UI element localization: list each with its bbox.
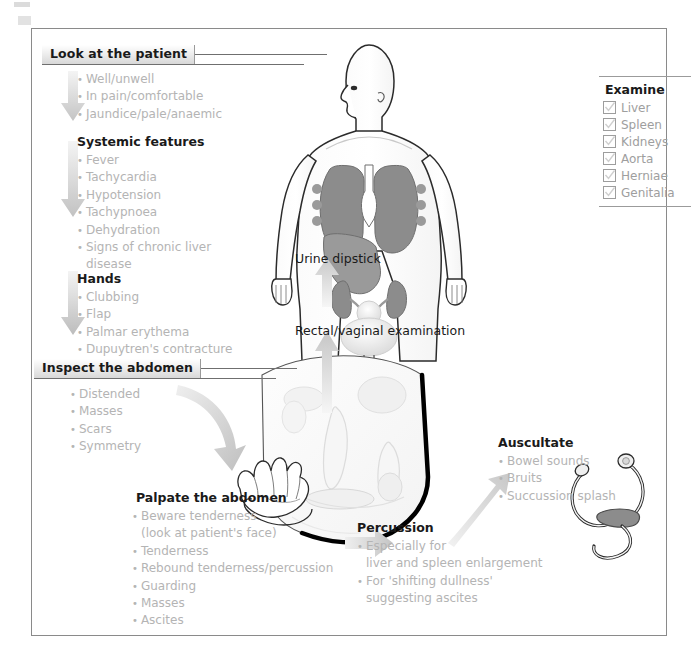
examine-label: Liver <box>621 101 650 115</box>
list-item: Succussion splash <box>498 488 616 505</box>
step-urine-dipstick: Urine dipstick <box>295 251 381 266</box>
heading-hands: Hands <box>77 271 121 286</box>
up-arrow-to-rectal-vaginal <box>314 329 340 415</box>
checkmark-icon[interactable] <box>603 135 616 148</box>
checkmark-icon[interactable] <box>603 101 616 114</box>
list-item: Clubbing <box>77 289 232 306</box>
heading-palpate-the-abdomen: Palpate the abdomen <box>136 490 287 505</box>
list-item: Scars <box>70 421 141 438</box>
heading-look-label: Look at the patient <box>42 45 195 64</box>
list-item: Beware tenderness <box>132 508 333 525</box>
list-item: Hypotension <box>77 187 211 204</box>
list-item: For 'shifting dullness' <box>357 573 542 590</box>
examine-label: Spleen <box>621 118 662 132</box>
checkmark-icon[interactable] <box>603 169 616 182</box>
examine-row-genitalia[interactable]: Genitalia <box>603 184 691 201</box>
list-item: liver and spleen enlargement <box>357 555 542 572</box>
list-item: Palmar erythema <box>77 324 232 341</box>
examine-row-aorta[interactable]: Aorta <box>603 150 691 167</box>
step-rectal-vaginal-examination: Rectal/vaginal examination <box>295 323 465 338</box>
heading-look-at-the-patient: Look at the patient <box>42 45 304 64</box>
list-item: Masses <box>70 403 141 420</box>
list-palpate: Beware tenderness (look at patient's fac… <box>132 508 333 630</box>
heading-inspect-label: Inspect the abdomen <box>34 359 201 378</box>
list-item: Dehydration <box>77 222 211 239</box>
list-item: Distended <box>70 386 141 403</box>
list-item: Symmetry <box>70 438 141 455</box>
heading-percussion: Percussion <box>357 520 434 535</box>
examine-title: Examine <box>605 82 691 97</box>
examine-bottom-rule <box>599 206 691 207</box>
examine-label: Genitalia <box>621 186 675 200</box>
list-item: Bowel sounds <box>498 453 616 470</box>
list-item: Guarding <box>132 578 333 595</box>
examine-label: Herniae <box>621 169 668 183</box>
list-percussion: Especially for liver and spleen enlargem… <box>357 538 542 608</box>
heading-inspect-the-abdomen: Inspect the abdomen <box>34 359 276 378</box>
list-hands: Clubbing Flap Palmar erythema Dupuytren'… <box>77 289 232 359</box>
list-item: Masses <box>132 595 333 612</box>
list-item: Jaundice/pale/anaemic <box>77 106 222 123</box>
checkmark-icon[interactable] <box>603 152 616 165</box>
checkmark-icon[interactable] <box>603 186 616 199</box>
list-item: (look at patient's face) <box>132 525 333 542</box>
list-item: Tachycardia <box>77 169 211 186</box>
list-item: Ascites <box>132 612 333 629</box>
examine-top-rule <box>599 76 691 77</box>
list-inspect: Distended Masses Scars Symmetry <box>70 386 141 456</box>
list-item: Signs of chronic liver <box>77 239 211 256</box>
examine-row-liver[interactable]: Liver <box>603 99 691 116</box>
list-item: suggesting ascites <box>357 590 542 607</box>
checkmark-icon[interactable] <box>603 118 616 131</box>
scan-artifact-top <box>14 2 30 7</box>
list-item: Flap <box>77 306 232 323</box>
curved-arrow-to-palpate <box>172 379 262 479</box>
heading-auscultate: Auscultate <box>498 435 573 450</box>
examine-row-herniae[interactable]: Herniae <box>603 167 691 184</box>
list-item: Well/unwell <box>77 71 222 88</box>
list-item: Fever <box>77 152 211 169</box>
list-item: Especially for <box>357 538 542 555</box>
list-item: In pain/comfortable <box>77 88 222 105</box>
list-item: Tachypnoea <box>77 204 211 221</box>
diagram-frame: Look at the patient Well/unwell In pain/… <box>31 28 667 636</box>
list-item: Dupuytren's contracture <box>77 341 232 358</box>
examine-label: Kidneys <box>621 135 668 149</box>
list-item: Rebound tenderness/percussion <box>132 560 333 577</box>
heading-systemic-features: Systemic features <box>77 134 204 149</box>
examine-row-spleen[interactable]: Spleen <box>603 116 691 133</box>
scan-artifact-corner <box>18 16 31 25</box>
list-auscultate: Bowel sounds Bruits Succussion splash <box>498 453 616 505</box>
examine-row-kidneys[interactable]: Kidneys <box>603 133 691 150</box>
examine-checklist: Examine Liver Spleen Kidneys Aorta <box>599 76 691 207</box>
examine-label: Aorta <box>621 152 653 166</box>
list-systemic: Fever Tachycardia Hypotension Tachypnoea… <box>77 152 211 274</box>
list-item: Tenderness <box>132 543 333 560</box>
list-look: Well/unwell In pain/comfortable Jaundice… <box>77 71 222 123</box>
list-item: Bruits <box>498 470 616 487</box>
